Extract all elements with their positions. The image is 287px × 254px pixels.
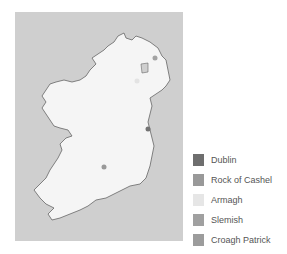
legend-item-rock-of-cashel: Rock of Cashel [193, 170, 272, 190]
lough-neagh [141, 63, 148, 73]
legend-item-slemish: Slemish [193, 210, 272, 230]
legend-item-dublin: Dublin [193, 150, 272, 170]
legend: Dublin Rock of Cashel Armagh Slemish Cro… [193, 150, 272, 250]
legend-swatch [193, 234, 204, 246]
legend-swatch [193, 214, 204, 226]
legend-label: Armagh [211, 195, 243, 205]
ireland-map [15, 12, 183, 241]
legend-swatch [193, 174, 204, 186]
legend-label: Rock of Cashel [211, 175, 272, 185]
map-point-slemish[interactable] [153, 56, 158, 61]
legend-label: Dublin [211, 155, 237, 165]
legend-swatch [193, 154, 204, 166]
legend-label: Slemish [211, 215, 243, 225]
legend-item-armagh: Armagh [193, 190, 272, 210]
legend-label: Croagh Patrick [211, 235, 271, 245]
map-point-rock-of-cashel[interactable] [102, 165, 107, 170]
legend-swatch [193, 194, 204, 206]
ireland-landmass [34, 33, 170, 220]
map-point-armagh[interactable] [135, 79, 140, 84]
map-frame [15, 12, 183, 241]
map-point-dublin[interactable] [146, 127, 151, 132]
legend-item-croagh-patrick: Croagh Patrick [193, 230, 272, 250]
